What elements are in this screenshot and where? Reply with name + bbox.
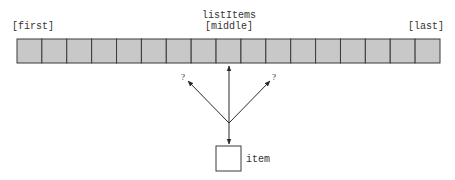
array-cell <box>191 39 216 63</box>
array-cell <box>141 39 166 63</box>
array-cell <box>415 39 440 63</box>
array-cell <box>166 39 191 63</box>
arrow-to-right-half <box>229 81 270 123</box>
array-cell <box>316 39 341 63</box>
array-cell <box>117 39 142 63</box>
array-cell <box>17 39 42 63</box>
first-index-label: [first] <box>12 21 54 32</box>
comparison-arrows <box>188 66 270 144</box>
array-name-label: listItems <box>202 10 256 21</box>
last-index-label: [last] <box>408 21 444 32</box>
left-question-mark: ? <box>181 72 185 82</box>
array-cell <box>291 39 316 63</box>
array-cell <box>390 39 415 63</box>
array-cell <box>340 39 365 63</box>
array-cell <box>67 39 92 63</box>
middle-index-label: [middle] <box>205 21 253 32</box>
array-cell <box>266 39 291 63</box>
search-item-box <box>216 146 241 171</box>
array-cell <box>365 39 390 63</box>
array-cell <box>92 39 117 63</box>
item-label: item <box>246 154 270 165</box>
array-cells <box>17 39 440 63</box>
array-cell <box>241 39 266 63</box>
right-question-mark: ? <box>272 72 276 82</box>
array-cell-middle <box>216 39 241 63</box>
arrow-to-left-half <box>188 81 229 123</box>
array-cell <box>42 39 67 63</box>
binary-search-diagram: listItems [middle] [first] [last] ? ? it… <box>0 0 455 180</box>
